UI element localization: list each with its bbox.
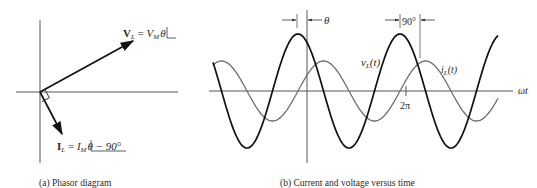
phasor-diagram: VL = VMθ IL = IMθ − 90° (a) Phasor diagr… (16, 20, 178, 188)
figure: VL = VMθ IL = IMθ − 90° (a) Phasor diagr… (0, 0, 537, 188)
voltage-label: vL(t) (361, 56, 381, 70)
voltage-angle-symbol (167, 27, 176, 38)
caption-b: (b) Current and voltage versus time (280, 178, 415, 188)
current-phasor-arrow (40, 92, 62, 134)
voltage-phasor-label: VL = VMθ (123, 27, 166, 41)
phase-label: 90° (402, 16, 416, 27)
omega-t-label: ωt (518, 85, 528, 96)
waveform-plot: θ 90° vL(t) iL(t) 2π ωt (b) Current and … (209, 10, 528, 188)
current-label: iL(t) (441, 64, 458, 77)
caption-a: (a) Phasor diagram (39, 178, 112, 188)
two-pi-label: 2π (400, 100, 410, 111)
theta-label: θ (324, 14, 330, 26)
voltage-phasor-arrow (40, 41, 133, 92)
current-phasor-label: IL = IMθ − 90° (57, 140, 122, 154)
